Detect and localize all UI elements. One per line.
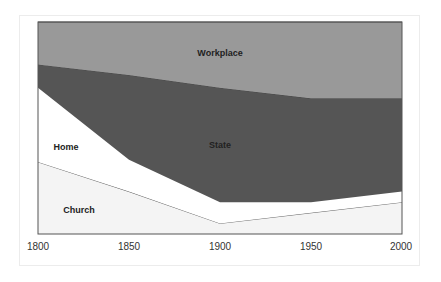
x-tick-1900: 1900 — [209, 241, 231, 252]
x-tick-2000: 2000 — [390, 241, 412, 252]
area-label-workplace: Workplace — [197, 48, 242, 58]
area-label-state: State — [209, 140, 231, 150]
x-tick-1850: 1850 — [118, 241, 140, 252]
area-label-church: Church — [63, 205, 95, 215]
area-label-home: Home — [53, 142, 78, 152]
x-tick-1800: 1800 — [27, 241, 49, 252]
x-tick-1950: 1950 — [300, 241, 322, 252]
